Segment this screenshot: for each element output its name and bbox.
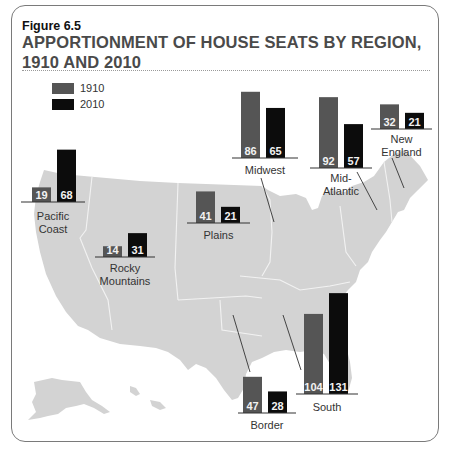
- bar-value-midwest-2010: 65: [269, 145, 281, 157]
- bar-value-south-1910: 104: [304, 381, 323, 393]
- bar-value-south-2010: 131: [329, 381, 347, 393]
- bar-value-pacific-coast-1910: 19: [35, 189, 47, 201]
- bar-value-rocky-mountains-2010: 31: [131, 244, 143, 256]
- bar-value-mid-atlantic-2010: 57: [347, 155, 359, 167]
- legend-swatch-1910: [52, 83, 74, 94]
- bar-value-new-england-1910: 32: [383, 116, 395, 128]
- bar-value-pacific-coast-2010: 68: [60, 189, 72, 201]
- region-label-rocky-mountains: Rocky: [110, 262, 141, 274]
- legend-swatch-2010: [52, 99, 74, 110]
- bar-south-2010: [329, 293, 348, 394]
- chart-canvas: 1968PacificCoast1431RockyMountains4121Pl…: [0, 0, 450, 456]
- map-alaska: [28, 378, 110, 420]
- map-contiguous-us: [34, 150, 428, 400]
- map-hawaii: [130, 386, 166, 410]
- bar-value-new-england-2010: 21: [408, 116, 420, 128]
- region-label-pacific-coast: Pacific: [37, 210, 70, 222]
- region-label-new-england: New: [390, 133, 412, 145]
- bar-value-rocky-mountains-1910: 14: [106, 244, 119, 256]
- bar-value-midwest-1910: 86: [244, 145, 256, 157]
- bar-value-plains-2010: 21: [224, 210, 236, 222]
- region-label-plains: Plains: [204, 229, 234, 241]
- bar-value-plains-1910: 41: [199, 210, 211, 222]
- region-label-rocky-mountains: Mountains: [100, 275, 151, 287]
- region-label-border: Border: [250, 419, 283, 431]
- bar-value-mid-atlantic-1910: 92: [322, 155, 334, 167]
- legend-entry-2010: 2010: [52, 96, 104, 112]
- region-label-south: South: [313, 401, 342, 413]
- region-label-mid-atlantic: Mid-: [330, 172, 352, 184]
- legend-label-2010: 2010: [80, 98, 104, 110]
- legend-label-1910: 1910: [80, 82, 104, 94]
- legend: 1910 2010: [52, 80, 104, 112]
- legend-entry-1910: 1910: [52, 80, 104, 96]
- region-label-mid-atlantic: Atlantic: [323, 185, 360, 197]
- region-label-new-england: England: [381, 146, 421, 158]
- bar-value-border-2010: 28: [271, 400, 283, 412]
- region-label-midwest: Midwest: [245, 164, 285, 176]
- bar-value-border-1910: 47: [246, 400, 258, 412]
- region-label-pacific-coast: Coast: [39, 223, 68, 235]
- us-map: [28, 150, 428, 420]
